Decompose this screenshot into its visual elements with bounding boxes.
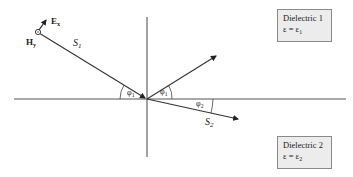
angle-arc-reflected	[169, 86, 172, 99]
h-field-label: Hy	[26, 38, 36, 47]
dielectric-2-eq: ε = ε2	[283, 151, 326, 162]
angle-incident-label: φ1	[127, 89, 134, 97]
angle-transmitted-label: φ2	[196, 100, 203, 108]
angle-arc-transmitted	[211, 99, 213, 113]
dielectric-2-name: Dielectric 2	[283, 140, 326, 151]
transmitted-ray-label: S2	[205, 117, 214, 127]
reflected-ray	[147, 56, 216, 99]
dielectric-2-box: Dielectric 2 ε = ε2	[277, 136, 332, 169]
e-field-label: Ex	[51, 17, 60, 26]
angle-reflected-label: φ1′	[160, 88, 169, 96]
dielectric-1-eq: ε = ε1	[283, 24, 326, 35]
incident-ray-label: S1	[73, 38, 82, 48]
dielectric-1-name: Dielectric 1	[283, 13, 326, 24]
dielectric-1-box: Dielectric 1 ε = ε1	[277, 9, 332, 42]
transmitted-ray	[147, 99, 238, 119]
angle-arc-incident	[120, 85, 124, 99]
e-field-arrow	[39, 20, 46, 30]
